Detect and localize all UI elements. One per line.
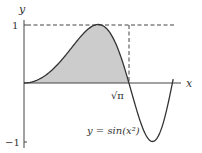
curve-label: y = sin(x²)	[86, 125, 140, 136]
sqrt-pi-label: √π	[111, 90, 124, 101]
y-tick-label-neg1: −1	[5, 137, 20, 148]
sin-x-squared-figure: y x 1 −1 √π y = sin(x²)	[0, 0, 202, 153]
y-tick-label-1: 1	[12, 20, 18, 31]
shaded-area	[24, 25, 129, 84]
y-axis-label: y	[18, 3, 26, 16]
x-axis-label: x	[186, 77, 193, 90]
